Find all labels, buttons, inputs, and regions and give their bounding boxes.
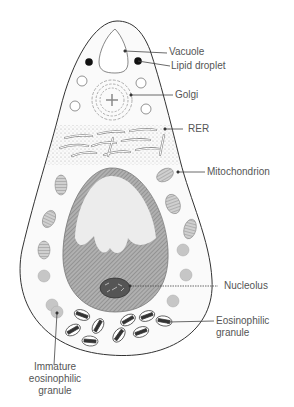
label-eosinophilic-granule-1: Eosinophilic bbox=[216, 315, 269, 326]
label-lipid-droplet: Lipid droplet bbox=[171, 60, 225, 71]
lipid-droplet bbox=[85, 58, 93, 66]
label-immature-3: granule bbox=[20, 385, 90, 396]
cell-diagram bbox=[0, 0, 294, 407]
label-mitochondrion: Mitochondrion bbox=[207, 166, 270, 177]
label-immature-2: eosinophilic bbox=[20, 373, 90, 384]
label-eosinophilic-granule-2: granule bbox=[216, 327, 249, 338]
label-rer: RER bbox=[188, 123, 209, 134]
label-vacuole: Vacuole bbox=[169, 46, 204, 57]
label-immature-1: Immature bbox=[20, 361, 90, 372]
label-nucleolus: Nucleolus bbox=[224, 280, 268, 291]
rer-region bbox=[40, 125, 200, 165]
label-golgi: Golgi bbox=[175, 89, 198, 100]
